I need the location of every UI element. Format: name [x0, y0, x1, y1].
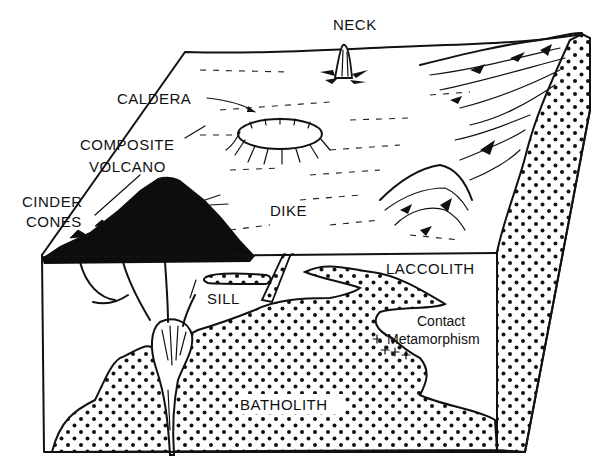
label-neck: NECK: [333, 16, 377, 33]
label-composite-volcano-2: VOLCANO: [89, 158, 166, 175]
igneous-landforms-diagram: NECK CALDERA COMPOSITE VOLCANO CINDER CO…: [0, 0, 596, 469]
label-contact-metamorphism-2: Metamorphism: [387, 331, 480, 347]
label-cinder-cones-2: CONES: [26, 213, 82, 230]
label-composite-volcano-1: COMPOSITE: [80, 136, 175, 153]
label-contact-metamorphism-1: Contact: [417, 313, 465, 329]
label-cinder-cones-1: CINDER: [22, 193, 83, 210]
label-batholith: BATHOLITH: [240, 396, 328, 413]
sill: [204, 274, 271, 284]
label-dike: DIKE: [270, 202, 307, 219]
label-caldera: CALDERA: [117, 90, 191, 107]
label-laccolith: LACCOLITH: [386, 260, 475, 277]
label-sill: SILL: [207, 290, 240, 307]
